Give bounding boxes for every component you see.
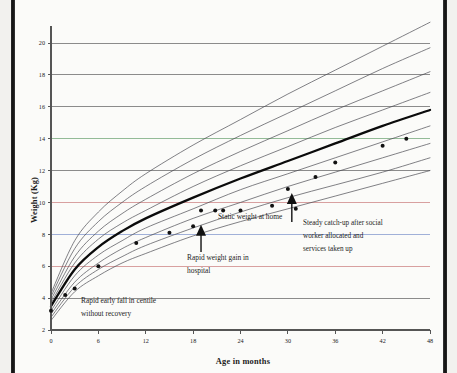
data-point bbox=[294, 207, 298, 211]
x-tick-label: 12 bbox=[143, 337, 149, 344]
y-tick-label: 10 bbox=[39, 199, 45, 206]
x-tick-label: 6 bbox=[97, 337, 100, 344]
y-tick-label: 4 bbox=[42, 294, 45, 301]
annotation-static-weight-at-home: Static weight at home bbox=[218, 212, 283, 221]
data-point bbox=[73, 287, 77, 291]
annotation-line: Rapid early fall in centile bbox=[81, 296, 157, 305]
data-point bbox=[333, 161, 337, 165]
x-tick-label: 0 bbox=[49, 337, 52, 344]
centile-curve-50th-centile bbox=[51, 110, 430, 306]
centile-curve-9th-centile bbox=[51, 143, 430, 314]
y-tick-label: 2 bbox=[42, 326, 45, 333]
page-outer-margin-right bbox=[447, 0, 457, 373]
arrow-rapid-weight-gain bbox=[196, 225, 206, 252]
x-axis-title: Age in months bbox=[216, 357, 271, 366]
data-point bbox=[63, 293, 67, 297]
x-tick-label: 42 bbox=[380, 337, 386, 344]
x-tick-label: 48 bbox=[427, 337, 433, 344]
centile-curves bbox=[51, 22, 430, 320]
x-tick-label: 30 bbox=[285, 337, 291, 344]
page-background: 24681012141618200612182430364248 Weight … bbox=[0, 0, 457, 373]
annotation-line: hospital bbox=[187, 266, 210, 275]
y-tick-label: 16 bbox=[39, 103, 45, 110]
data-point bbox=[167, 231, 171, 235]
y-axis-title: Weight (Kg) bbox=[30, 177, 39, 223]
centile-curve-2nd-centile bbox=[51, 158, 430, 317]
data-point bbox=[270, 204, 274, 208]
data-point bbox=[286, 187, 290, 191]
data-point bbox=[96, 264, 100, 268]
y-tick-label: 14 bbox=[39, 135, 45, 142]
y-tick-label: 20 bbox=[39, 39, 45, 46]
annotation-line: without recovery bbox=[81, 309, 132, 318]
data-point bbox=[314, 175, 318, 179]
annotation-line: services taken up bbox=[303, 245, 353, 253]
axis-ticks bbox=[48, 43, 431, 334]
annotation-rapid-early-fall: Rapid early fall in centile without reco… bbox=[81, 296, 157, 318]
data-point bbox=[191, 224, 195, 228]
data-point bbox=[213, 208, 217, 212]
annotation-line: Static weight at home bbox=[218, 212, 283, 221]
y-tick-label: 8 bbox=[42, 231, 45, 238]
annotation-line: Steady catch-up after social bbox=[303, 219, 383, 227]
annotation-rapid-weight-gain: Rapid weight gain in hospital bbox=[187, 253, 249, 275]
y-tick-label: 12 bbox=[39, 167, 45, 174]
x-tick-label: 24 bbox=[237, 337, 243, 344]
growth-chart: 24681012141618200612182430364248 Weight … bbox=[15, 0, 443, 373]
annotation-line: worker allocated and bbox=[303, 232, 364, 240]
data-point bbox=[199, 208, 203, 212]
data-point bbox=[381, 144, 385, 148]
data-point bbox=[134, 241, 138, 245]
x-tick-label: 36 bbox=[332, 337, 338, 344]
data-point bbox=[404, 137, 408, 141]
page-outer-margin-left bbox=[0, 0, 11, 373]
y-tick-label: 18 bbox=[39, 71, 45, 78]
annotation-steady-catch-up: Steady catch-up after social worker allo… bbox=[303, 219, 383, 253]
centile-curve-75th-centile bbox=[51, 92, 430, 302]
data-point bbox=[49, 309, 53, 313]
y-tick-label: 6 bbox=[42, 262, 45, 269]
annotation-line: Rapid weight gain in bbox=[187, 253, 249, 262]
x-tick-label: 18 bbox=[190, 337, 196, 344]
